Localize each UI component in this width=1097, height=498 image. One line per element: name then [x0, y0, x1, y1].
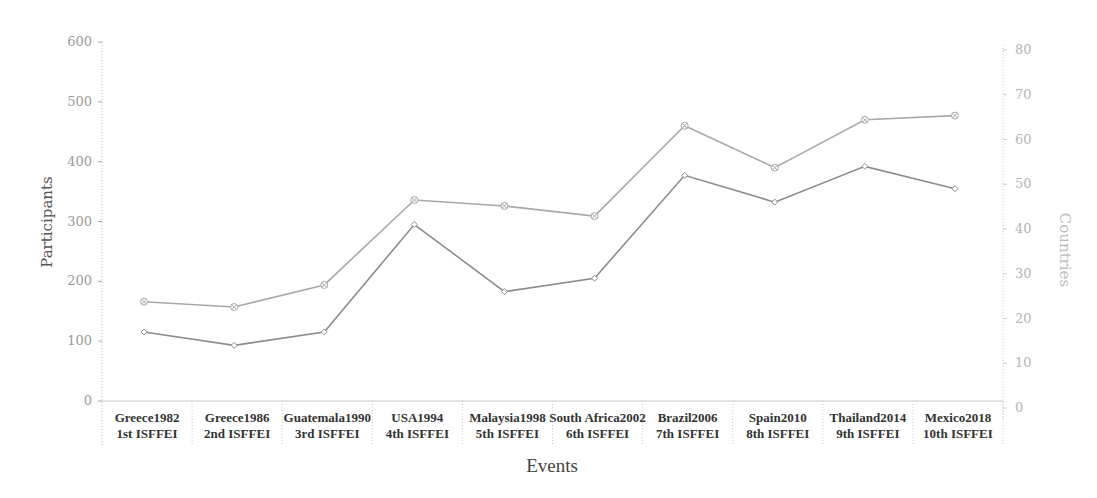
category-sublabel: 7th ISFFEI — [656, 426, 719, 441]
y2-axis-title: Countries — [1056, 213, 1074, 287]
category-label: Malaysia1998 — [469, 410, 546, 425]
category-sublabel: 6th ISFFEI — [566, 426, 629, 441]
category-label: South Africa2002 — [549, 410, 645, 425]
diamond-marker — [141, 329, 147, 335]
y2-tick-label: 40 — [1015, 221, 1032, 236]
category-label: Brazil2006 — [658, 410, 718, 425]
category-sublabel: 4th ISFFEI — [386, 426, 449, 441]
category-sublabel: 1st ISFFEI — [117, 426, 178, 441]
y2-tick-label: 20 — [1015, 311, 1032, 326]
y-tick-label: 0 — [84, 393, 92, 408]
y-tick-label: 300 — [67, 214, 92, 229]
diamond-marker — [952, 186, 958, 192]
category-sublabel: 8th ISFFEI — [746, 426, 809, 441]
y2-tick-label: 70 — [1015, 87, 1032, 102]
countries-line — [144, 166, 955, 345]
left-y-axis: 0100200300400500600 — [67, 34, 102, 445]
participants-line — [144, 116, 955, 307]
category-label: Thailand2014 — [830, 410, 907, 425]
category-label: Mexico2018 — [925, 410, 992, 425]
y2-tick-label: 80 — [1015, 42, 1032, 57]
category-label: Spain2010 — [749, 410, 807, 425]
diamond-marker — [862, 163, 868, 169]
y-tick-label: 100 — [67, 333, 92, 348]
y2-tick-label: 0 — [1015, 400, 1023, 415]
x-axis-title: Events — [526, 455, 578, 476]
y2-tick-label: 30 — [1015, 266, 1032, 281]
category-sublabel: 5th ISFFEI — [476, 426, 539, 441]
y-tick-label: 600 — [67, 34, 92, 49]
category-label: Greece1982 — [115, 410, 180, 425]
category-sublabel: 3rd ISFFEI — [295, 426, 360, 441]
category-sublabel: 10th ISFFEI — [923, 426, 993, 441]
category-label: USA1994 — [391, 410, 444, 425]
category-sublabel: 9th ISFFEI — [836, 426, 899, 441]
y-tick-label: 400 — [67, 154, 92, 169]
category-label: Guatemala1990 — [284, 410, 371, 425]
diamond-marker — [772, 199, 778, 205]
category-label: Greece1986 — [205, 410, 270, 425]
category-sublabel: 2nd ISFFEI — [204, 426, 270, 441]
chart-canvas: 0100200300400500600 01020304050607080 Gr… — [0, 0, 1097, 498]
y2-tick-label: 10 — [1015, 355, 1032, 370]
y2-tick-label: 60 — [1015, 132, 1032, 147]
x-axis: Greece19821st ISFFEIGreece19862nd ISFFEI… — [102, 401, 1003, 445]
y-tick-label: 500 — [67, 94, 92, 109]
right-y-axis: 01020304050607080 — [1003, 42, 1032, 418]
plot-series — [141, 112, 959, 348]
diamond-marker — [231, 342, 237, 348]
y2-tick-label: 50 — [1015, 176, 1032, 191]
y-tick-label: 200 — [67, 273, 92, 288]
y-axis-title: Participants — [38, 176, 56, 268]
